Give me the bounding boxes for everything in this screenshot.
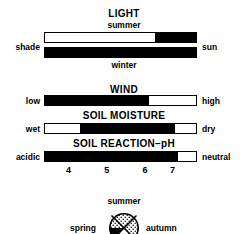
soil-moisture-dry-label: dry xyxy=(202,124,215,134)
ph-tick-4: 4 xyxy=(58,164,78,176)
wind-heading: WIND xyxy=(0,84,248,95)
soil-moisture-wet-label: wet xyxy=(26,124,40,134)
light-shade-label: shade xyxy=(15,42,40,52)
soil-moisture-heading: SOIL MOISTURE xyxy=(0,110,248,121)
wind-bar-fill xyxy=(45,96,149,105)
wind-low-label: low xyxy=(26,96,40,106)
light-sun-label: sun xyxy=(202,42,217,52)
light-winter-bar-fill xyxy=(45,48,196,57)
ph-tick-6: 6 xyxy=(135,164,155,176)
ph-tick-7: 7 xyxy=(163,164,183,176)
light-summer-label: summer xyxy=(0,20,248,30)
season-spring-label: spring xyxy=(70,223,96,233)
season-summer-label: summer xyxy=(0,196,248,206)
soil-moisture-bar xyxy=(44,123,197,134)
soil-reaction-neutral-label: neutral xyxy=(202,152,230,162)
wind-bar xyxy=(44,95,197,106)
soil-reaction-acidic-label: acidic xyxy=(16,152,40,162)
season-autumn-label: autumn xyxy=(146,223,177,233)
light-winter-bar xyxy=(44,47,197,58)
soil-reaction-ph-bar-fill xyxy=(45,152,178,161)
plant-requirements-chart: LIGHT summer shade sun winter WIND low h… xyxy=(0,0,248,234)
soil-reaction-heading: SOIL REACTION–pH xyxy=(0,138,248,149)
light-heading: LIGHT xyxy=(0,8,248,19)
light-summer-bar-fill xyxy=(155,33,196,42)
wind-high-label: high xyxy=(202,96,220,106)
light-winter-label: winter xyxy=(0,60,248,70)
ph-tick-5: 5 xyxy=(97,164,117,176)
soil-reaction-ph-bar xyxy=(44,151,197,162)
soil-moisture-bar-fill xyxy=(80,124,175,133)
season-wheel-icon xyxy=(104,208,144,234)
ph-scale-ticks: 4 5 6 7 xyxy=(44,164,197,176)
light-summer-bar xyxy=(44,32,197,43)
